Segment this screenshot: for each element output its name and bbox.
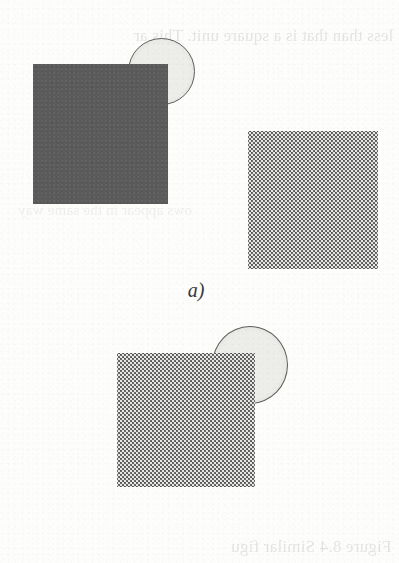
- figure-panel-b: b): [0, 315, 399, 563]
- bleed-through-text-bottom: Figure 8.4 Similar figu: [231, 537, 391, 557]
- panel-b-dotted-square: [117, 353, 255, 487]
- figure-page: less than that is a square unit. This ar…: [0, 0, 399, 563]
- panel-a-solid-square: [33, 64, 168, 204]
- panel-a-caption: a): [166, 279, 226, 302]
- panel-a-dotted-square: [248, 131, 378, 269]
- figure-panel-a: a): [0, 0, 399, 315]
